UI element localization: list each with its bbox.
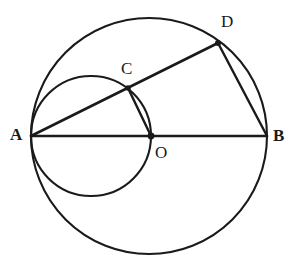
segment-co bbox=[128, 88, 151, 136]
vertex-label-d: D bbox=[221, 13, 233, 30]
segment-db bbox=[218, 43, 267, 136]
geometry-canvas bbox=[0, 0, 295, 274]
geometry-figure: A B O C D bbox=[0, 0, 295, 274]
point-marker-d bbox=[215, 40, 221, 46]
vertex-label-c: C bbox=[121, 60, 132, 77]
segment-ad bbox=[31, 43, 218, 136]
vertex-label-o: O bbox=[155, 144, 167, 161]
point-marker-o bbox=[148, 133, 155, 140]
vertex-label-a: A bbox=[10, 126, 22, 143]
vertex-label-b: B bbox=[273, 127, 284, 144]
point-marker-c bbox=[125, 85, 131, 91]
